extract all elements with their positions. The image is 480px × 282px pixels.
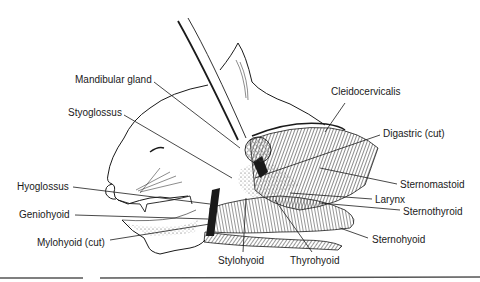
label-mandibular-gland: Mandibular gland — [75, 74, 152, 86]
leader-line-geniohyoid — [75, 215, 208, 219]
label-thyrohyoid: Thyrohyoid — [290, 255, 339, 267]
label-sternohyoid: Sternohyoid — [372, 234, 425, 246]
label-hyoglossus: Hyoglossus — [17, 181, 69, 193]
bottom-rule-1 — [100, 277, 480, 278]
leader-line-mandibular-gland — [154, 82, 240, 148]
neck-muscles — [204, 123, 378, 250]
label-geniohyoid: Geniohyoid — [19, 209, 70, 221]
anatomy-diagram: Mandibular gland Styoglossus Cleidocervi… — [0, 0, 480, 282]
label-digastric-cut: Digastric (cut) — [383, 128, 445, 140]
label-mylohyoid-cut: Mylohyoid (cut) — [37, 237, 105, 249]
ear — [220, 43, 325, 125]
label-sternomastoid: Sternomastoid — [400, 179, 464, 191]
label-stylohyoid: Stylohyoid — [218, 255, 264, 267]
label-sternothyroid: Sternothyroid — [403, 206, 462, 218]
bottom-rules — [0, 277, 480, 278]
retractor-strap — [178, 18, 246, 140]
label-styoglossus: Styoglossus — [68, 107, 122, 119]
leader-line-styoglossus — [124, 115, 232, 178]
label-larynx: Larynx — [375, 194, 405, 206]
label-cleidocervicalis: Cleidocervicalis — [331, 86, 400, 98]
leader-line-sternohyoid — [340, 228, 368, 238]
